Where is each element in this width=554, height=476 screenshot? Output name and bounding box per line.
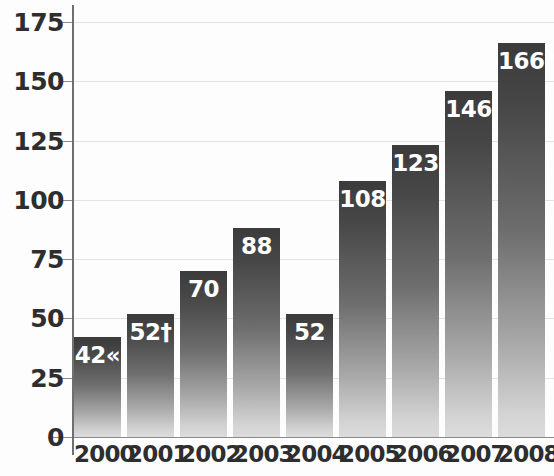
x-axis-tick-label: 2004 xyxy=(286,443,333,466)
bar[interactable]: 52 xyxy=(286,314,333,437)
bar[interactable]: 52† xyxy=(127,314,174,437)
bar[interactable]: 166* xyxy=(498,43,545,437)
bar-value-label: 123 xyxy=(392,151,439,175)
bar[interactable]: 123 xyxy=(392,145,439,437)
x-axis-tick-label: 2002 xyxy=(180,443,227,466)
bar-value-label: 146 xyxy=(445,97,492,121)
bar-chart: 0255075100125150175 42«52†70885210812314… xyxy=(0,0,554,476)
bar-value-label: 52 xyxy=(286,320,333,344)
x-axis-tick-label: 2001 xyxy=(127,443,174,466)
bar[interactable]: 42« xyxy=(74,337,121,437)
x-axis-tick-label: 2006 xyxy=(392,443,439,466)
x-axis-tick-label: 2003 xyxy=(233,443,280,466)
x-axis-tick-label: 2000 xyxy=(74,443,121,466)
bar[interactable]: 88 xyxy=(233,228,280,437)
bar-value-label: 42« xyxy=(74,343,121,367)
bars-group: 42«52†708852108123146166* xyxy=(0,0,554,476)
bar[interactable]: 146 xyxy=(445,91,492,437)
bar-value-label: 108 xyxy=(339,187,386,211)
bar-value-label: 88 xyxy=(233,234,280,258)
bar-value-label: 70 xyxy=(180,277,227,301)
bar[interactable]: 70 xyxy=(180,271,227,437)
x-axis-tick-label: 2008 xyxy=(498,443,545,466)
x-axis-tick-label: 2005 xyxy=(339,443,386,466)
bar[interactable]: 108 xyxy=(339,181,386,437)
bar-value-label: 166* xyxy=(498,49,545,73)
bar-value-label: 52† xyxy=(127,320,174,344)
x-axis-tick-label: 2007 xyxy=(445,443,492,466)
